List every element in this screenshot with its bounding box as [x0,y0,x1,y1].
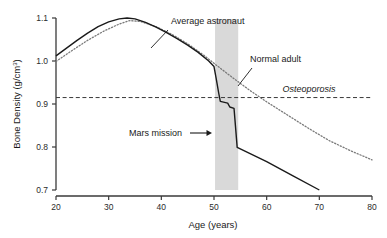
leader-line-normal-adult [238,68,252,86]
x-tick-label: 80 [367,202,377,212]
annotation-osteoporosis: Osteoporosis [282,84,336,94]
series-average-astronaut [56,18,319,190]
y-tick-label: 0.7 [36,185,48,195]
arrow-head-mars-mission [207,130,213,136]
y-tick-labels: 0.70.80.91.01.1 [36,13,48,195]
x-tick-label: 50 [209,202,219,212]
y-tick-label: 1.0 [36,56,48,66]
mars-mission-band [215,19,238,190]
annotation-mars-mission: Mars mission [129,128,182,138]
x-axis-label: Age (years) [188,219,237,230]
y-tick-label: 0.9 [36,99,48,109]
x-tick-label: 60 [262,202,272,212]
annotation-average-astronaut: Average astronaut [171,16,245,26]
annotation-normal-adult: Normal adult [250,54,302,64]
x-tick-labels: 20304050607080 [51,202,377,212]
x-tick-label: 30 [104,202,114,212]
y-axis-label: Bone Density (g/cm3) [11,59,22,148]
x-tick-label: 70 [315,202,325,212]
chart-svg: 0.70.80.91.01.1 20304050607080 Average a… [0,0,387,238]
y-tick-label: 1.1 [36,13,48,23]
leader-line-average-astronaut [151,30,168,48]
bone-density-chart: 0.70.80.91.01.1 20304050607080 Average a… [0,0,387,238]
x-tick-label: 20 [51,202,61,212]
y-tick-label: 0.8 [36,142,48,152]
x-tick-label: 40 [157,202,167,212]
